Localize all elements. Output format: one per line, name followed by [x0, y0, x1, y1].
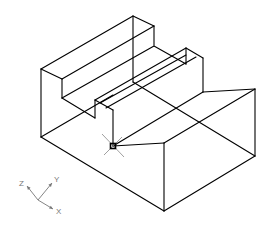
edge-line	[113, 143, 164, 146]
edge-line	[164, 156, 255, 211]
edge-line	[41, 137, 164, 211]
edge-line	[164, 89, 255, 143]
edge-line	[154, 46, 186, 64]
y-axis-arrow-icon	[38, 183, 52, 200]
x-axis-arrow-icon	[38, 200, 53, 209]
edge-line	[95, 48, 186, 100]
edge-line	[41, 69, 62, 79]
edge-line	[41, 16, 133, 69]
edge-line	[133, 16, 154, 26]
edge-line	[133, 82, 255, 156]
z-axis-arrow-icon	[27, 186, 38, 200]
edge-line	[41, 95, 113, 137]
isometric-wireframe-model	[41, 16, 255, 211]
edge-line	[106, 57, 196, 108]
axis-label-y: Y	[54, 175, 60, 184]
edge-line	[62, 46, 154, 98]
axis-label-z: Z	[19, 179, 24, 188]
edge-line	[113, 92, 203, 146]
drawing-canvas: Z Y X	[0, 0, 270, 232]
edge-line	[203, 89, 255, 92]
edge-line	[186, 48, 203, 58]
ucs-axis-icon: Z Y X	[19, 175, 62, 216]
edge-line	[100, 55, 186, 103]
edge-line	[62, 26, 154, 79]
axis-label-x: X	[56, 207, 62, 216]
